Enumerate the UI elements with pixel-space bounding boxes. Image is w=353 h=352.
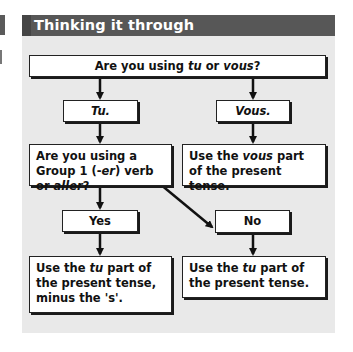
q1-tu: tu <box>188 59 202 73</box>
q1-qmark: ? <box>254 59 261 73</box>
answer-no-text-a: Use the <box>189 261 242 275</box>
q1-or: or <box>202 59 224 73</box>
q2-er: er <box>101 164 114 178</box>
q1-vous: vous <box>223 59 253 73</box>
branch-yes-label: Yes <box>89 214 111 229</box>
q2-aller: aller <box>54 179 83 193</box>
q1-text: Are you using <box>95 59 188 73</box>
branch-vous: Vous. <box>216 100 290 122</box>
answer-vous: Use the vous part of the present tense. <box>182 144 326 186</box>
adjacent-text-fragment <box>0 50 2 64</box>
branch-tu-label: Tu. <box>91 104 110 119</box>
branch-no: No <box>215 210 290 233</box>
answer-yes-tu: tu <box>89 261 103 275</box>
branch-no-label: No <box>244 214 262 229</box>
answer-vous-text-a: Use the <box>189 149 242 163</box>
question-group1-verb: Are you using a Group 1 (-er) verb or al… <box>29 144 172 186</box>
answer-no: Use the tu part of the present tense. <box>182 256 326 298</box>
branch-vous-label: Vous. <box>235 104 270 119</box>
question-tu-or-vous: Are you using tu or vous? <box>29 55 326 77</box>
answer-yes-text-a: Use the <box>36 261 89 275</box>
answer-no-tu: tu <box>242 261 256 275</box>
q2-qmark: ? <box>83 179 90 193</box>
branch-tu: Tu. <box>63 100 138 122</box>
answer-vous-vous: vous <box>242 149 272 163</box>
thinking-panel: Thinking it through Are you using tu or … <box>22 15 335 333</box>
answer-yes: Use the tu part of the present tense, mi… <box>29 256 172 313</box>
adjacent-panel-edge <box>0 15 5 35</box>
branch-yes: Yes <box>62 210 138 232</box>
